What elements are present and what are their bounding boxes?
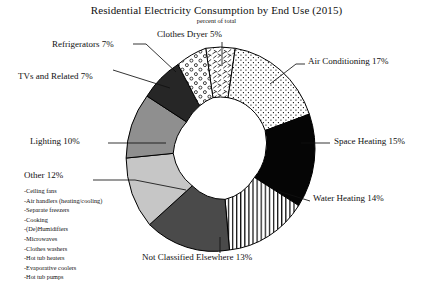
- other-breakdown-list: -Ceiling fans-Air handlers (heating/cool…: [24, 186, 102, 282]
- other-breakdown-item: -Clothes washers: [24, 244, 102, 254]
- other-breakdown-item: -Evaporative coolers: [24, 263, 102, 273]
- other-breakdown-item: -Ceiling fans: [24, 186, 102, 196]
- slice-label-water-heating[interactable]: Water Heating 14%: [313, 194, 384, 204]
- slice-label-refrigerators[interactable]: Refrigerators 7%: [52, 40, 114, 50]
- slice-label-not-classified-elsewhere[interactable]: Not Classified Elsewhere 13%: [142, 253, 252, 263]
- other-breakdown-item: -Cooking: [24, 215, 102, 225]
- slice-label-tvs-and-related[interactable]: TVs and Related 7%: [18, 72, 93, 82]
- slice-label-space-heating[interactable]: Space Heating 15%: [334, 137, 405, 147]
- other-breakdown-item: -Air handlers (heating/cooling): [24, 196, 102, 206]
- other-breakdown-item: -Hot tub pumps: [24, 272, 102, 282]
- leader-refrigerators: [133, 44, 176, 72]
- donut-slices: [126, 47, 315, 251]
- slice-label-air-conditioning[interactable]: Air Conditioning 17%: [308, 57, 389, 67]
- slice-label-clothes-dryer[interactable]: Clothes Dryer 5%: [157, 30, 222, 40]
- other-breakdown-item: -Microwaves: [24, 234, 102, 244]
- other-breakdown-item: -Separate freezers: [24, 205, 102, 215]
- other-breakdown-item: -Hot tub heaters: [24, 253, 102, 263]
- other-breakdown-item: -(De)Humidifiers: [24, 224, 102, 234]
- pie-chart-figure: Residential Electricity Consumption by E…: [0, 0, 433, 285]
- slice-label-other[interactable]: Other 12%: [24, 171, 63, 181]
- slice-label-lighting[interactable]: Lighting 10%: [30, 137, 80, 147]
